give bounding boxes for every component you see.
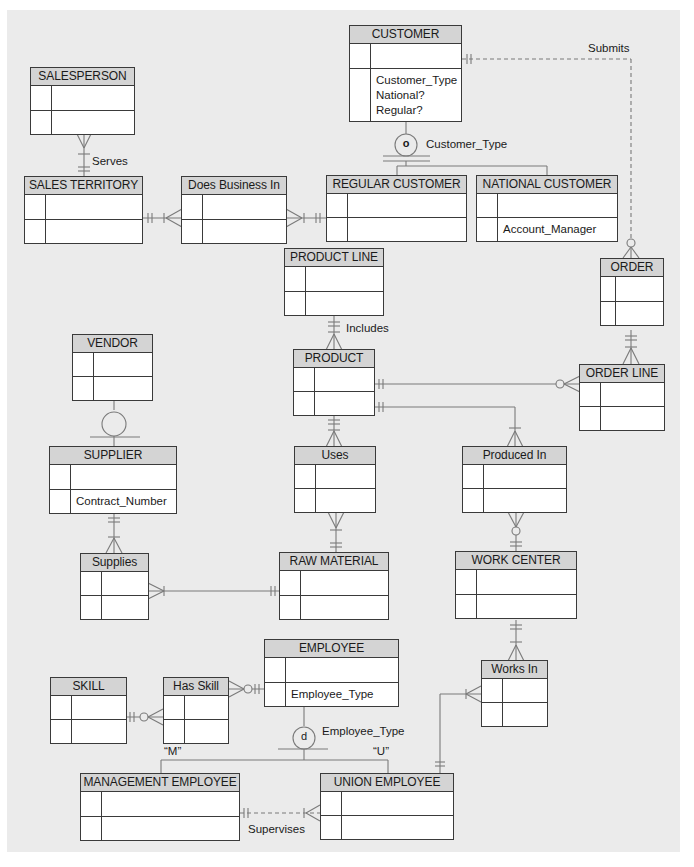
attr-customer-type: Customer_Type [376,73,457,88]
entity-title: REGULAR CUSTOMER [327,176,466,194]
label-serves: Serves [92,155,128,167]
entity-order-line[interactable]: ORDER LINE [579,364,665,431]
entity-union-employee[interactable]: UNION EMPLOYEE [320,773,454,840]
disjoint-symbol-icon: d [296,730,312,742]
attr-employee-type: Employee_Type [291,687,393,702]
entity-title: UNION EMPLOYEE [321,774,453,792]
attr-contract-number: Contract_Number [76,494,171,509]
entity-supplies[interactable]: Supplies [80,553,149,620]
label-discriminator-m: “M” [164,745,181,757]
label-submits: Submits [588,42,630,54]
entity-title: RAW MATERIAL [280,553,388,571]
entity-title: SALES TERRITORY [25,177,142,195]
attr-regular: Regular? [376,103,457,118]
entity-produced-in[interactable]: Produced In [462,446,567,513]
label-employee-type: Employee_Type [322,725,404,737]
entity-title: SUPPLIER [50,447,176,465]
entity-works-in[interactable]: Works In [481,660,548,727]
entity-product-line[interactable]: PRODUCT LINE [284,248,384,316]
entity-title: ORDER [601,259,663,277]
entity-salesperson[interactable]: SALESPERSON [30,67,135,135]
entity-title: Uses [295,447,375,465]
entity-title: Produced In [463,447,566,465]
attr-account-manager: Account_Manager [503,222,612,237]
entity-uses[interactable]: Uses [294,446,376,513]
entity-title: EMPLOYEE [265,640,398,658]
entity-national-customer[interactable]: NATIONAL CUSTOMER Account_Manager [476,175,618,242]
entity-employee[interactable]: EMPLOYEE Employee_Type [264,639,399,707]
entity-title: ORDER LINE [580,365,664,383]
entity-customer[interactable]: CUSTOMER Customer_Type National? Regular… [349,25,462,122]
entity-title: Supplies [81,554,148,572]
entity-vendor[interactable]: VENDOR [72,334,153,401]
entity-regular-customer[interactable]: REGULAR CUSTOMER [326,175,467,242]
overlap-symbol-icon: o [398,137,414,149]
entity-title: WORK CENTER [456,552,576,570]
entity-has-skill[interactable]: Has Skill [163,677,229,744]
entity-work-center[interactable]: WORK CENTER [455,551,577,619]
entity-title: PRODUCT LINE [285,249,383,267]
entity-title: PRODUCT [294,350,374,368]
entity-order[interactable]: ORDER [600,258,664,326]
entity-title: Works In [482,661,547,679]
entity-management-employee[interactable]: MANAGEMENT EMPLOYEE [80,773,240,841]
attr-national: National? [376,88,457,103]
entity-title: VENDOR [73,335,152,353]
entity-title: Has Skill [164,678,228,696]
entity-title: SALESPERSON [31,68,134,86]
entity-raw-material[interactable]: RAW MATERIAL [279,552,389,620]
entity-product[interactable]: PRODUCT [293,349,375,416]
label-customer-type: Customer_Type [426,138,507,150]
label-discriminator-u: “U” [373,745,389,757]
entity-title: NATIONAL CUSTOMER [477,176,617,194]
entity-sales-territory[interactable]: SALES TERRITORY [24,176,143,244]
entity-does-business-in[interactable]: Does Business In [181,176,287,244]
entity-title: SKILL [51,678,126,696]
label-supervises: Supervises [248,823,305,835]
entity-title: MANAGEMENT EMPLOYEE [81,774,239,792]
entity-title: Does Business In [182,177,286,195]
label-includes: Includes [346,322,389,334]
entity-title: CUSTOMER [350,26,461,44]
entity-skill[interactable]: SKILL [50,677,127,744]
entity-supplier[interactable]: SUPPLIER Contract_Number [49,446,177,514]
